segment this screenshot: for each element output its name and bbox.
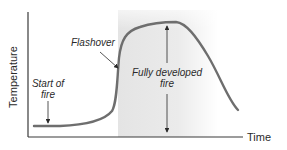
start-of-fire-label-line2: fire xyxy=(41,89,55,100)
x-axis-label: Time xyxy=(247,131,271,143)
fully-developed-label-line2: fire xyxy=(160,78,174,89)
y-axis-label: Temperature xyxy=(7,46,19,108)
flashover-label: Flashover xyxy=(71,37,116,48)
start-of-fire-label-line1: Start of xyxy=(32,78,65,89)
flashover-arrow-icon xyxy=(100,52,118,68)
fire-development-diagram: Temperature Time Start of fire Flashover… xyxy=(0,0,287,150)
fully-developed-label-line1: Fully developed xyxy=(132,67,202,78)
